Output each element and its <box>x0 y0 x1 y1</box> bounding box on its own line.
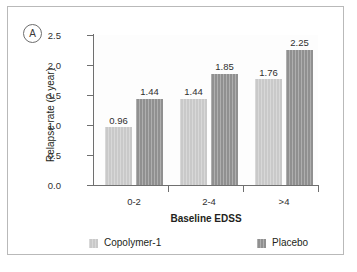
bar-placebo-2-4 <box>211 74 238 185</box>
square-swatch-icon <box>89 239 98 248</box>
y-tick-mark <box>87 125 93 126</box>
y-tick-label: 2.0 <box>48 61 61 71</box>
panel-letter-text: A <box>29 29 36 39</box>
bar-placebo-0-2 <box>136 99 163 185</box>
bar-value-label: 1.44 <box>178 87 209 97</box>
y-tick-mark <box>87 65 93 66</box>
y-tick-label: 1.5 <box>48 91 61 101</box>
x-axis-line <box>93 185 319 186</box>
bar-copolymer-gt4 <box>255 79 282 185</box>
x-group-label: 2-4 <box>179 197 239 207</box>
bar-copolymer-2-4 <box>180 99 207 185</box>
x-group-label: >4 <box>254 197 314 207</box>
x-tick-mark <box>243 186 244 192</box>
square-swatch-icon <box>257 239 266 248</box>
chart-legend: Copolymer-1 Placebo <box>22 236 345 252</box>
bar-copolymer-0-2 <box>105 127 132 185</box>
y-tick-label: 1.0 <box>48 121 61 131</box>
legend-item-copolymer-1: Copolymer-1 <box>89 238 161 248</box>
y-tick-mark <box>87 95 93 96</box>
bar-placebo-gt4 <box>286 50 313 185</box>
bar-value-label: 0.96 <box>103 116 134 126</box>
bar-value-label: 1.44 <box>134 87 165 97</box>
panel-letter-label: A <box>23 24 42 43</box>
legend-label: Placebo <box>272 238 308 248</box>
legend-label: Copolymer-1 <box>104 238 161 248</box>
bar-value-label: 1.85 <box>209 62 240 72</box>
y-tick-mark <box>87 35 93 36</box>
bar-value-label: 1.76 <box>253 68 284 78</box>
y-tick-label: 2.5 <box>48 31 61 41</box>
y-tick-mark <box>87 185 93 186</box>
y-tick-mark <box>87 155 93 156</box>
x-tick-mark <box>168 186 169 192</box>
x-axis-title: Baseline EDSS <box>94 214 318 224</box>
figure-frame: A Relapse rate (2 year) 0.0 0.5 1.0 1.5 … <box>7 6 344 255</box>
legend-item-placebo: Placebo <box>257 238 308 248</box>
x-tick-mark <box>318 186 319 192</box>
bar-value-label: 2.25 <box>284 38 315 48</box>
y-tick-label: 0.5 <box>48 151 61 161</box>
x-group-label: 0-2 <box>104 197 164 207</box>
y-tick-label: 0.0 <box>48 181 61 191</box>
